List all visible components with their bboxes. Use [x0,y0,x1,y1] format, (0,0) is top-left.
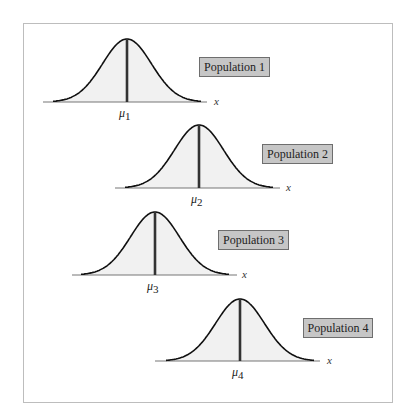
population-2-label: Population 2 [262,144,333,164]
population-2-curve [115,125,280,188]
x-axis-label: x [214,95,219,107]
population-4-label: Population 4 [303,318,373,338]
population-4-curve [155,299,320,361]
x-axis-label: x [327,354,332,366]
population-1-curve [43,39,207,102]
population-3-label: Population 3 [218,230,289,250]
x-axis-label: x [286,181,291,193]
mean-label: μ2 [191,192,203,208]
mean-label: μ3 [147,279,159,295]
population-1-label: Population 1 [199,57,270,77]
x-axis-label: x [242,268,247,280]
mean-label: μ1 [119,106,131,122]
population-3-curve [72,212,237,275]
mean-label: μ4 [232,365,244,381]
